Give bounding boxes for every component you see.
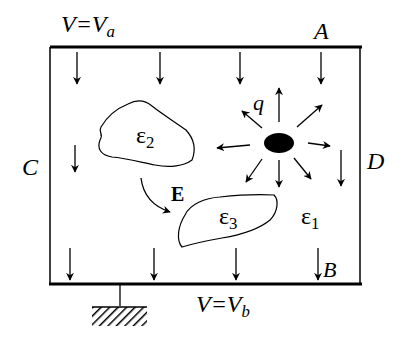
eps3-label: ε3: [219, 204, 237, 228]
eps1-label: ε1: [301, 204, 319, 228]
eps2-label: ε2: [136, 123, 154, 147]
charge-label: q: [253, 92, 264, 114]
point-d-label: D: [367, 149, 384, 173]
field-e-label: E: [171, 184, 184, 204]
field-arrows-middle: [75, 145, 341, 186]
point-charge: [264, 133, 294, 153]
top-potential-label: V=Va: [61, 12, 115, 36]
ground-hatch-icon: [92, 307, 147, 326]
electrostatics-diagram: V=Va A C D B q E ε2 ε3 ε1 V=Vb: [0, 0, 408, 344]
field-line-e-arrow: [141, 178, 170, 212]
point-c-label: C: [22, 155, 38, 179]
field-arrows-bottom: [70, 248, 318, 280]
bottom-potential-label: V=Vb: [196, 292, 250, 316]
field-arrows-top: [77, 52, 321, 84]
point-b-label: B: [323, 259, 336, 281]
point-a-label: A: [314, 19, 329, 43]
